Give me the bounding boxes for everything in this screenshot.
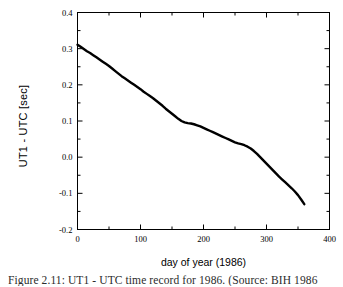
x-axis-minor-ticks: [109, 13, 298, 230]
y-tick-label: 0.1: [62, 116, 73, 126]
x-tick-label: 200: [197, 234, 210, 244]
x-axis-tick-labels: 0100200300400: [75, 234, 336, 244]
figure-container: 0100200300400 -0.2-0.10.00.10.20.30.4 UT…: [0, 0, 343, 287]
chart-svg: 0100200300400 -0.2-0.10.00.10.20.30.4: [0, 0, 343, 255]
x-tick-label: 300: [260, 234, 273, 244]
y-tick-label: 0.4: [62, 8, 73, 18]
figure-caption: Figure 2.11: UT1 - UTC time record for 1…: [8, 274, 343, 286]
plot-area: 0100200300400 -0.2-0.10.00.10.20.30.4 UT…: [0, 0, 343, 255]
y-axis-major-ticks: [78, 13, 330, 230]
x-tick-label: 0: [75, 234, 79, 244]
x-axis-title: day of year (1986): [77, 256, 330, 268]
y-axis-title: UT1 - UTC [sec]: [17, 41, 29, 211]
data-series-ut1-utc: [78, 45, 305, 204]
y-tick-label: 0.2: [62, 80, 73, 90]
x-axis-major-ticks: [78, 13, 330, 230]
y-tick-label: -0.1: [59, 188, 72, 198]
y-tick-label: -0.2: [59, 225, 72, 235]
plot-frame: [78, 13, 330, 230]
x-tick-label: 400: [323, 234, 336, 244]
y-tick-label: 0.0: [62, 152, 73, 162]
x-tick-label: 100: [134, 234, 147, 244]
y-tick-label: 0.3: [62, 44, 73, 54]
y-axis-tick-labels: -0.2-0.10.00.10.20.30.4: [59, 8, 73, 235]
y-axis-minor-ticks: [78, 31, 330, 212]
